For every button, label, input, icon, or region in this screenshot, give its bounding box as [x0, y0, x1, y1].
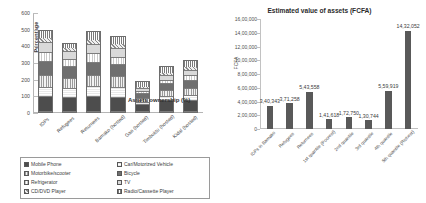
right-chart-bar[interactable]	[306, 92, 313, 129]
left-chart-stacked-bar[interactable]	[38, 30, 53, 113]
legend-item[interactable]: CD/DVD Player	[24, 187, 113, 196]
left-chart-bar-segment	[63, 79, 76, 90]
right-chart-tick-mark	[257, 129, 260, 130]
legend-swatch-icon	[117, 180, 122, 185]
right-chart-bar-value-label: 1,72,750	[339, 110, 359, 116]
estimated-value-of-assets-chart: Estimated value of assets (FCFA) FCFA 16…	[213, 0, 426, 203]
left-chart-bar-segment	[39, 62, 52, 76]
left-chart-stacked-bar[interactable]	[183, 60, 198, 113]
left-chart-bar-slot	[57, 13, 81, 113]
legend-item[interactable]: Refrigerator	[24, 178, 113, 187]
right-chart-bar-slot: 5,43,558	[300, 19, 320, 129]
left-chart-bar-segment	[63, 67, 76, 79]
left-chart-bar-segment	[184, 89, 197, 96]
right-chart-y-tick-label: 14,00,000	[235, 30, 257, 36]
right-chart-x-slot: IDPs in Bamako	[260, 131, 280, 191]
left-chart-bar-segment	[87, 32, 100, 39]
right-chart-bar[interactable]	[405, 31, 412, 129]
left-chart-bar-segment	[39, 31, 52, 38]
legend-item-label: Mobile Phone	[31, 162, 62, 167]
right-chart-y-tick-label: 12,00,000	[235, 44, 257, 50]
left-chart-bar-segment	[39, 97, 52, 112]
right-chart-y-tick-label: 4,00,000	[238, 99, 257, 105]
left-chart-bar-slot	[82, 13, 106, 113]
left-chart-bar-segment	[111, 65, 124, 77]
legend-item[interactable]: Radio/Cassette Player	[117, 187, 206, 196]
legend-item[interactable]: Motorbike/scooter	[24, 169, 113, 178]
legend-swatch-icon	[24, 162, 29, 167]
left-chart-bar-segment	[39, 76, 52, 88]
right-chart-x-slot: Refugees	[280, 131, 300, 191]
left-chart-y-tick-label: 400	[21, 43, 30, 49]
left-chart-stacked-bar[interactable]	[159, 66, 174, 113]
legend-item-label: Radio/Cassette Player	[124, 189, 174, 194]
legend-item[interactable]: Car/Motorized Vehicle	[117, 160, 206, 169]
left-chart-bar-slot	[106, 13, 130, 113]
right-chart-bar-slot: 5,59,919	[379, 19, 399, 129]
right-chart-bar-slot: 3,71,258	[280, 19, 300, 129]
left-chart-bar-segment	[160, 84, 173, 91]
left-chart-bar-segment	[111, 88, 124, 98]
right-chart-bar-slot: 1,72,750	[339, 19, 359, 129]
left-chart-x-slot: Kidal (hosted)	[179, 115, 203, 153]
right-chart-y-tick-label: 10,00,000	[235, 57, 257, 63]
right-chart-bar[interactable]	[286, 103, 293, 129]
left-chart-y-tick-label: 100	[21, 93, 30, 99]
left-chart-stacked-bar[interactable]	[62, 43, 77, 113]
right-chart-plot-area: 16,00,00014,00,00012,00,00010,00,0008,00…	[260, 19, 418, 129]
left-chart-bar-segment	[87, 97, 100, 112]
left-chart-bar-segment	[111, 58, 124, 65]
left-chart-stacked-bar[interactable]	[86, 31, 101, 113]
left-chart-x-slot: Refugees	[57, 115, 81, 153]
two-chart-figure: Percentage 0100200300400500600 IDPsRefug…	[0, 0, 426, 203]
left-chart-bar-segment	[39, 88, 52, 97]
right-chart-bar-value-label: 3,71,258	[280, 96, 300, 102]
legend-item-label: Car/Motorized Vehicle	[124, 162, 173, 167]
right-chart-x-tick-label: Returnees	[296, 131, 315, 150]
left-chart-bar-slot	[33, 13, 57, 113]
right-chart-bar[interactable]	[365, 120, 372, 129]
right-chart-bar[interactable]	[326, 119, 333, 129]
right-chart-bar-slot: 14,32,052	[398, 19, 418, 129]
right-chart-y-tick-label: 16,00,000	[235, 16, 257, 22]
left-chart-bar-segment	[87, 54, 100, 62]
left-chart-y-tick-label: 500	[21, 27, 30, 33]
left-chart-bar-segment	[111, 98, 124, 112]
right-chart-bar-value-label: 5,43,558	[299, 84, 319, 90]
left-chart-legend: Mobile PhoneCar/Motorized VehicleMotorbi…	[20, 157, 210, 199]
right-chart-bar-slot: 3,40,343	[260, 19, 280, 129]
left-chart-x-tick-label: Returnees	[79, 115, 100, 135]
right-chart-x-tick-label: IDPs in Bamako	[249, 130, 276, 157]
left-chart-stacked-bar[interactable]	[110, 36, 125, 113]
legend-item[interactable]: Bicycle	[117, 169, 206, 178]
right-chart-x-slot: 3rd quantile	[359, 131, 379, 191]
right-chart-y-tick-label: 8,00,000	[238, 71, 257, 77]
right-chart-bar-slot: 1,30,744	[359, 19, 379, 129]
left-chart-bar-segment	[63, 89, 76, 97]
left-chart-bar-segment	[184, 61, 197, 68]
legend-item[interactable]: Mobile Phone	[24, 160, 113, 169]
assets-ownership-chart: Percentage 0100200300400500600 IDPsRefug…	[0, 0, 213, 203]
right-chart-x-slot: 1st quantile (Poorest)	[319, 131, 339, 191]
left-chart-gridline	[33, 113, 38, 114]
left-chart-bar-segment	[87, 87, 100, 97]
left-chart-bar-segment	[136, 105, 149, 112]
right-chart-bar[interactable]	[267, 106, 274, 129]
left-chart-bar-segment	[63, 60, 76, 67]
right-chart-bar[interactable]	[385, 91, 392, 129]
left-chart-bar-segment	[87, 76, 100, 88]
right-chart-bar-value-label: 14,32,052	[397, 23, 420, 29]
legend-item[interactable]: TV	[117, 178, 206, 187]
right-chart-bar-value-label: 3,40,343	[260, 98, 280, 104]
right-chart-x-tick-label: Refugees	[277, 131, 294, 148]
left-chart-bar-segment	[87, 45, 100, 55]
right-chart-bar-value-label: 1,41,618	[319, 112, 339, 118]
left-chart-x-tick-labels: IDPsRefugeesReturneesBamako (hosted)Gao …	[33, 115, 203, 153]
left-chart-y-tick-label: 300	[21, 60, 30, 66]
right-chart-bar-slot: 1,41,618	[319, 19, 339, 129]
right-chart-bar-value-label: 5,59,919	[378, 83, 398, 89]
right-chart-title: Estimated value of assets (FCFA)	[213, 7, 426, 14]
right-chart-bar[interactable]	[346, 117, 353, 129]
left-chart-y-tick-label: 200	[21, 77, 30, 83]
legend-swatch-icon	[117, 171, 122, 176]
